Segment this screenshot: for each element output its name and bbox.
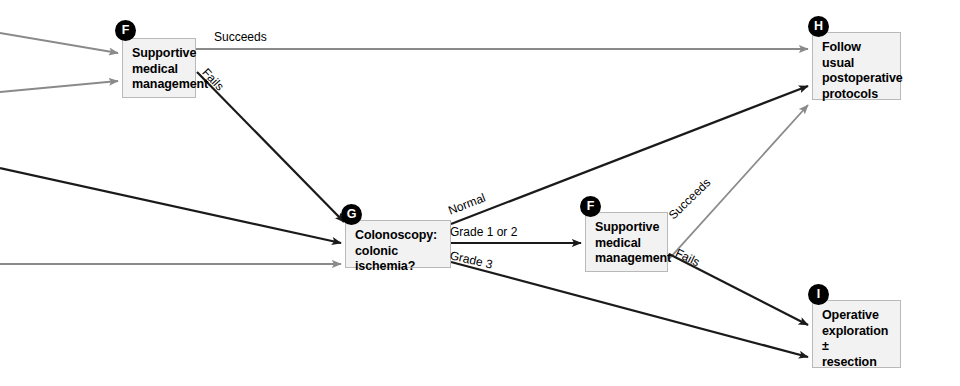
edge-g-normal-h [451,86,808,224]
node-i-operative-exploration-resection[interactable]: Operative exploration ± resection [812,300,901,368]
node-i-line-1: Operative [822,308,895,324]
node-badge-f1: F [115,20,136,41]
node-g-line-1: Colonoscopy: [355,228,445,244]
edge-in-f1-lower [0,81,118,92]
node-f1-line-2: medical [132,62,190,78]
node-badge-f2: F [580,196,601,217]
node-g-line-2: colonic ischemia? [355,244,445,275]
node-g-colonoscopy-colonic-ischemia[interactable]: Colonoscopy: colonic ischemia? [345,220,451,268]
node-badge-i: I [808,284,829,305]
node-f2-line-3: management [595,251,662,267]
node-f1-text: Supportive medical management [132,46,190,93]
node-f1-line-1: Supportive [132,46,190,62]
node-i-line-3: resection [822,355,895,371]
node-h-line-3: protocols [822,87,895,103]
edge-f1-fails-g [197,72,344,222]
node-g-text: Colonoscopy: colonic ischemia? [355,228,445,275]
node-f2-line-1: Supportive [595,220,662,236]
node-f2-supportive-medical-management[interactable]: Supportive medical management [585,212,668,272]
edge-g-grade3-i [451,262,808,357]
node-i-line-2: exploration ± [822,324,895,355]
edge-in-g-upper [0,168,341,243]
node-f2-line-2: medical [595,236,662,252]
node-h-follow-usual-postoperative-protocols[interactable]: Follow usual postoperative protocols [812,32,901,100]
edge-label-grade-1-or-2-g: Grade 1 or 2 [450,226,517,239]
node-badge-h: H [808,16,829,37]
node-i-text: Operative exploration ± resection [822,308,895,370]
flowchart-canvas: Supportive medical management F Colonosc… [0,0,960,386]
node-badge-g: G [341,204,362,225]
node-f1-line-3: management [132,77,190,93]
node-f2-text: Supportive medical management [595,220,662,267]
edge-in-f1-upper [0,33,118,53]
node-h-line-1: Follow usual [822,40,895,71]
node-h-text: Follow usual postoperative protocols [822,40,895,102]
edge-label-succeeds-f1: Succeeds [214,31,267,44]
node-h-line-2: postoperative [822,71,895,87]
node-f1-supportive-medical-management[interactable]: Supportive medical management [122,38,196,98]
edge-f2-succeeds-h [669,105,808,259]
